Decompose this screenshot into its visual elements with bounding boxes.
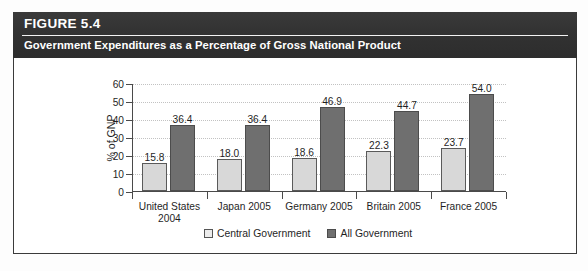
figure-caption: Government Expenditures as a Percentage … (24, 39, 401, 51)
bar-value-label: 54.0 (472, 83, 492, 94)
legend-label: Central Government (217, 228, 311, 239)
category-separator-tick (132, 192, 133, 199)
bar-group: 18.646.9 (282, 83, 357, 191)
bar-all-government[interactable]: 36.4 (245, 125, 270, 191)
bar-group: 18.036.4 (207, 83, 282, 191)
y-axis-tick-label: 0 (100, 187, 124, 198)
bar-value-label: 44.7 (397, 100, 417, 111)
bar-central-government[interactable]: 15.8 (142, 163, 167, 191)
category-label: France 2005 (431, 201, 506, 213)
legend-label: All Government (340, 228, 412, 239)
bar-central-government[interactable]: 22.3 (366, 151, 391, 191)
category-label: United States2004 (132, 201, 207, 224)
bar-group: 22.344.7 (356, 83, 431, 191)
legend-swatch-central (204, 229, 213, 238)
bar-value-label: 36.4 (247, 114, 267, 125)
figure-number: FIGURE 5.4 (24, 16, 101, 31)
chart-frame: % of GNP 0102030405060 15.836.418.036.41… (13, 58, 577, 254)
legend-item[interactable]: All Government (327, 228, 412, 239)
bar-central-government[interactable]: 23.7 (441, 148, 466, 191)
bar-all-government[interactable]: 46.9 (320, 107, 345, 191)
figure-page: FIGURE 5.4 Government Expenditures as a … (0, 0, 588, 271)
legend-swatch-all (327, 229, 336, 238)
category-label: Britain 2005 (356, 201, 431, 213)
y-axis-tick-label: 30 (100, 133, 124, 144)
category-separator-tick (506, 192, 507, 199)
bar-value-label: 18.0 (219, 148, 239, 159)
category-label: Germany 2005 (282, 201, 357, 213)
chart-legend: Central GovernmentAll Government (14, 228, 588, 239)
y-axis-tick-label: 40 (100, 115, 124, 126)
category-separator-tick (282, 192, 283, 199)
bar-value-label: 22.3 (369, 140, 389, 151)
plot-area: % of GNP 0102030405060 15.836.418.036.41… (119, 84, 506, 250)
figure-header-band: FIGURE 5.4 Government Expenditures as a … (13, 12, 577, 58)
bar-value-label: 46.9 (322, 96, 342, 107)
bar-all-government[interactable]: 36.4 (170, 125, 195, 191)
bar-value-label: 15.8 (145, 152, 165, 163)
category-separator-tick (431, 192, 432, 199)
bar-all-government[interactable]: 54.0 (469, 94, 494, 191)
bar-value-label: 23.7 (444, 137, 464, 148)
source-note-clipped (14, 265, 434, 271)
bar-group: 15.836.4 (132, 83, 207, 191)
bar-value-label: 36.4 (173, 114, 193, 125)
bar-central-government[interactable]: 18.6 (292, 158, 317, 191)
category-label: Japan 2005 (207, 201, 282, 213)
y-axis-tick-label: 20 (100, 151, 124, 162)
bar-central-government[interactable]: 18.0 (217, 159, 242, 191)
category-separator-tick (356, 192, 357, 199)
legend-item[interactable]: Central Government (204, 228, 311, 239)
bar-all-government[interactable]: 44.7 (394, 111, 419, 191)
y-axis-tick-label: 50 (100, 97, 124, 108)
x-axis-line (132, 191, 506, 192)
bar-value-label: 18.6 (294, 147, 314, 158)
bar-group: 23.754.0 (431, 83, 506, 191)
y-axis-tick-label: 60 (100, 79, 124, 90)
header-divider-rule (22, 35, 568, 37)
category-separator-tick (207, 192, 208, 199)
y-axis-tick-label: 10 (100, 169, 124, 180)
